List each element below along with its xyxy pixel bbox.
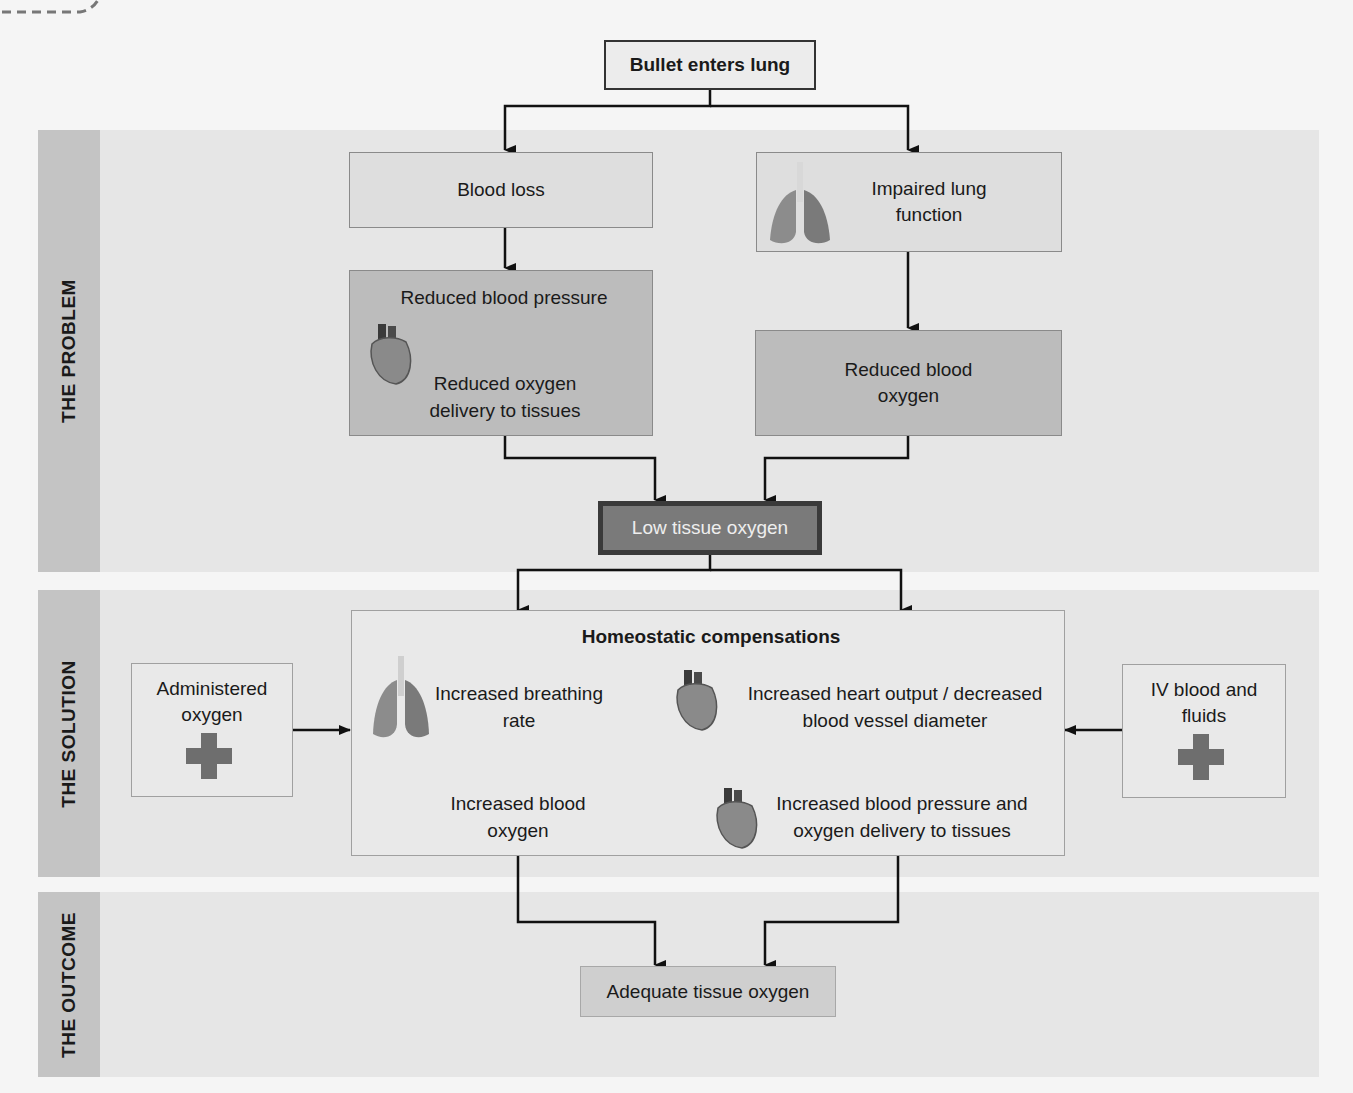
problem-label: THE PROBLEM: [58, 279, 80, 423]
node-blood-loss: Blood loss: [349, 152, 653, 228]
heart-icon: [366, 322, 414, 386]
node-reduced-blood-oxygen: Reduced blood oxygen: [755, 330, 1062, 436]
node-label: Blood loss: [457, 177, 545, 203]
node-reduced-bp: Reduced blood pressure: [349, 284, 659, 311]
solution-label: THE SOLUTION: [58, 660, 80, 807]
node-low-tissue-oxygen: Low tissue oxygen: [598, 501, 822, 555]
node-bullet-enters-lung: Bullet enters lung: [604, 40, 816, 90]
outcome-label: THE OUTCOME: [58, 912, 80, 1058]
problem-label-bar: THE PROBLEM: [38, 130, 100, 572]
lungs-icon: [372, 654, 430, 740]
node-increased-blood-oxygen: Increased blood oxygen: [430, 790, 606, 844]
node-label: Reduced blood oxygen: [819, 357, 999, 409]
node-label: IV blood and fluids: [1144, 677, 1264, 729]
medical-cross-icon: [186, 733, 232, 779]
node-label: Administered oxygen: [142, 676, 282, 728]
node-reduced-o2-delivery: Reduced oxygen delivery to tissues: [400, 370, 610, 424]
outcome-label-bar: THE OUTCOME: [38, 892, 100, 1077]
node-increased-heart-output: Increased heart output / decreased blood…: [730, 680, 1060, 734]
node-increased-breathing-rate: Increased breathing rate: [430, 680, 608, 734]
heart-icon: [672, 668, 720, 732]
node-label: Impaired lung function: [854, 176, 1004, 228]
node-label: Adequate tissue oxygen: [607, 979, 810, 1005]
node-label: Low tissue oxygen: [632, 515, 788, 541]
node-label: Bullet enters lung: [630, 52, 790, 78]
node-adequate-tissue-oxygen: Adequate tissue oxygen: [580, 966, 836, 1017]
medical-cross-icon: [1178, 734, 1224, 780]
lungs-icon: [768, 160, 832, 246]
heart-icon: [712, 786, 760, 850]
homeostatic-title: Homeostatic compensations: [351, 623, 1071, 650]
node-increased-bp-delivery: Increased blood pressure and oxygen deli…: [760, 790, 1044, 844]
solution-label-bar: THE SOLUTION: [38, 590, 100, 877]
